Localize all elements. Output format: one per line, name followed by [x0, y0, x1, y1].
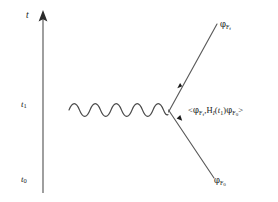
tick-t1-subscript: 1: [24, 102, 27, 109]
time-axis-name-label: t: [26, 11, 29, 21]
outgoing-upper-fermion-line: [169, 24, 218, 112]
upper-state-sub-sub: f: [229, 26, 231, 31]
diagram-canvas: t t1 t0 φFf φF0 <φFf,HI(t1)φF0>: [0, 0, 278, 202]
axis-tick-label-t0: t0: [21, 175, 27, 185]
feynman-diagram-svg: [0, 0, 278, 202]
axis-tick-label-t1: t1: [21, 100, 27, 110]
matrix-element-expression: <φFf,HI(t1)φF0>: [188, 106, 243, 117]
outgoing-lower-fermion-line: [169, 110, 215, 178]
outgoing-upper-state-label: φFf: [220, 20, 231, 31]
lower-state-sub-sub: 0: [223, 182, 226, 187]
tick-t0-subscript: 0: [24, 177, 27, 184]
photon-wavy-line: [69, 104, 168, 117]
lower-fermion-arrowhead-icon: [177, 115, 183, 121]
matrix-close-bracket: >: [238, 105, 243, 115]
outgoing-lower-state-label: φF0: [214, 176, 226, 187]
lower-state-subscript: F0: [220, 180, 226, 186]
upper-state-subscript: Ff: [226, 24, 231, 30]
